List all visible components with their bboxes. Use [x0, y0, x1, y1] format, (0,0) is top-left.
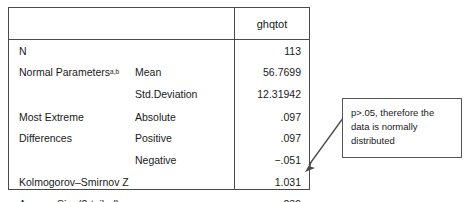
- row-label: [19, 149, 149, 171]
- table-row: Asymp. Sig. (2-tailed) .239: [9, 193, 309, 202]
- row-value: 1.031: [235, 172, 301, 194]
- row-label: Normal Parametersa,b: [19, 62, 149, 84]
- kolmogorov-smirnov-table: ghqtot N 113 Normal Parametersa,b Mean 5…: [8, 7, 310, 190]
- row-value: −.051: [235, 149, 301, 171]
- row-sublabel: Positive: [135, 128, 231, 150]
- row-label: [19, 83, 149, 105]
- row-sublabel: Negative: [135, 149, 231, 171]
- annotation-callout: p>.05, therefore the data is normally di…: [342, 98, 462, 158]
- table-row: Negative −.051: [9, 149, 309, 171]
- row-label: N: [19, 40, 149, 62]
- row-value: 12.31942: [235, 83, 301, 105]
- row-sublabel: [135, 193, 231, 202]
- table-row: Std.Deviation 12.31942: [9, 83, 309, 105]
- row-sublabel: [135, 172, 231, 194]
- row-sublabel: [135, 40, 231, 62]
- table-row: Differences Positive .097: [9, 128, 309, 150]
- row-value: 113: [235, 40, 301, 62]
- table-header-row: ghqtot: [9, 8, 309, 40]
- row-sublabel: Std.Deviation: [135, 83, 231, 105]
- row-sublabel: Absolute: [135, 106, 231, 128]
- row-label: Differences: [19, 128, 149, 150]
- table-header-variable-ghqtot: ghqtot: [234, 8, 309, 39]
- row-value: .097: [235, 128, 301, 150]
- row-sublabel: Mean: [135, 62, 231, 84]
- row-label: Kolmogorov–Smirnov Z: [19, 172, 149, 194]
- table-row: Kolmogorov–Smirnov Z 1.031: [9, 172, 309, 194]
- row-label: Most Extreme: [19, 106, 149, 128]
- table-row: Most Extreme Absolute .097: [9, 106, 309, 128]
- table-header-empty-cell: [9, 8, 233, 39]
- row-label: Asymp. Sig. (2-tailed): [19, 193, 149, 202]
- row-value: .097: [235, 106, 301, 128]
- table-row: Normal Parametersa,b Mean 56.7699: [9, 62, 309, 84]
- row-value: .239: [235, 193, 301, 202]
- table-body: N 113 Normal Parametersa,b Mean 56.7699 …: [9, 40, 309, 189]
- row-value: 56.7699: [235, 62, 301, 84]
- table-row: N 113: [9, 40, 309, 62]
